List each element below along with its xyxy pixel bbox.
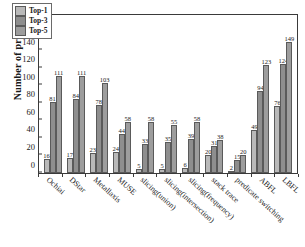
bar-group: 53555 xyxy=(156,15,179,173)
bar-group: 203138 xyxy=(203,15,226,173)
bar-value-label: 58 xyxy=(125,116,132,123)
bar-group: 1784111 xyxy=(64,15,87,173)
bar-group: 21520 xyxy=(226,15,249,173)
bar[interactable]: 111 xyxy=(56,76,62,173)
bar[interactable]: 149 xyxy=(286,42,292,173)
legend-item[interactable]: Top-3 xyxy=(15,16,47,26)
bar[interactable]: 38 xyxy=(217,140,223,173)
bar[interactable]: 55 xyxy=(171,125,177,173)
plot-area: 020406080100120140160180 168111117841112… xyxy=(38,14,298,174)
x-tick-label: LBFL xyxy=(281,176,301,195)
bar-value-label: 5 xyxy=(137,163,140,170)
legend-item[interactable]: Top-1 xyxy=(15,6,47,16)
x-axis-labels: OchiaiDStarMetallaxisMUSEslicing(union)s… xyxy=(38,176,298,246)
bar[interactable]: 103 xyxy=(102,83,108,173)
bar-value-label: 111 xyxy=(54,70,63,77)
bar-chart: Number of project 0204060801001201401601… xyxy=(0,0,305,247)
x-tick-label: ABFL xyxy=(257,176,278,196)
bar-value-label: 20 xyxy=(240,149,247,156)
bar[interactable]: 58 xyxy=(125,122,131,173)
bar[interactable]: 58 xyxy=(194,122,200,173)
y-tick-label: 80 xyxy=(27,90,40,99)
y-tick-label: 100 xyxy=(22,72,39,81)
bar-value-label: 111 xyxy=(77,70,86,77)
y-tick-label: 0 xyxy=(31,160,39,169)
bar-group: 4994123 xyxy=(249,15,272,173)
bar[interactable]: 111 xyxy=(79,76,85,173)
bar-group: 63958 xyxy=(180,15,203,173)
legend-swatch xyxy=(15,6,26,16)
legend-label: Top-3 xyxy=(29,17,47,25)
legend-swatch xyxy=(15,16,26,26)
bar-value-label: 55 xyxy=(171,119,178,126)
bar-value-label: 58 xyxy=(194,116,201,123)
legend: Top-1Top-3Top-5 xyxy=(12,3,52,39)
bar-value-label: 149 xyxy=(285,36,295,43)
bar-value-label: 38 xyxy=(217,134,224,141)
legend-label: Top-1 xyxy=(29,7,47,15)
bar-group: 2378103 xyxy=(87,15,110,173)
legend-item[interactable]: Top-5 xyxy=(15,26,47,36)
y-tick-label: 60 xyxy=(27,108,40,117)
y-tick-label: 20 xyxy=(27,143,40,152)
x-tick-mark xyxy=(298,174,299,177)
legend-label: Top-5 xyxy=(29,27,47,35)
x-tick-label: Ochiai xyxy=(44,176,65,196)
bar-group: 244458 xyxy=(110,15,133,173)
bar[interactable]: 20 xyxy=(240,155,246,173)
bar-group: 53358 xyxy=(133,15,156,173)
bar-value-label: 123 xyxy=(262,59,272,66)
bar-value-label: 103 xyxy=(100,77,110,84)
bar-value-label: 2 xyxy=(230,165,233,172)
bar-groups: 1681111178411123781032444585335853555639… xyxy=(39,15,297,173)
legend-swatch xyxy=(15,26,26,36)
y-tick-label: 120 xyxy=(22,55,39,64)
bar[interactable]: 58 xyxy=(148,122,154,173)
y-tick-label: 40 xyxy=(27,125,40,134)
bar-group: 76124149 xyxy=(272,15,295,173)
bar-value-label: 58 xyxy=(148,116,155,123)
bar-value-label: 5 xyxy=(160,163,163,170)
bar[interactable]: 123 xyxy=(263,65,269,173)
x-tick-label: DStar xyxy=(68,176,87,194)
bar-value-label: 6 xyxy=(183,162,186,169)
